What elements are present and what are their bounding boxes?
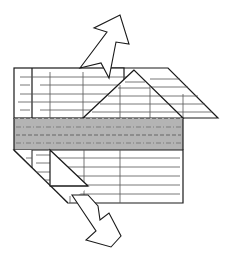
center-band [14,118,183,150]
origami-diagram [0,0,229,256]
